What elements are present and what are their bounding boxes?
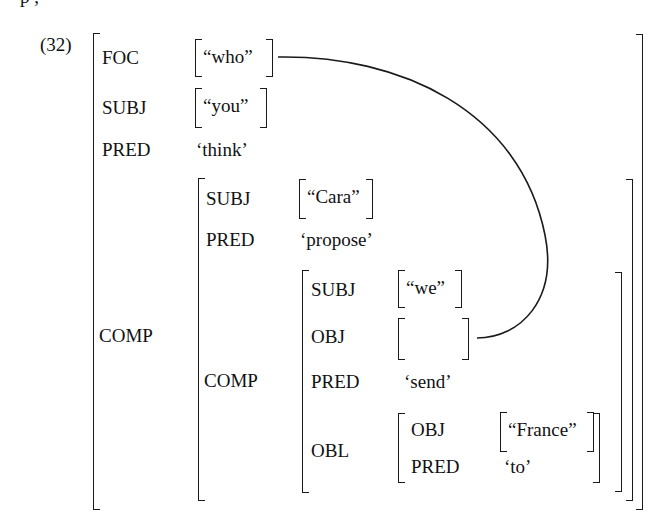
structure-sharing-connector	[0, 0, 670, 529]
